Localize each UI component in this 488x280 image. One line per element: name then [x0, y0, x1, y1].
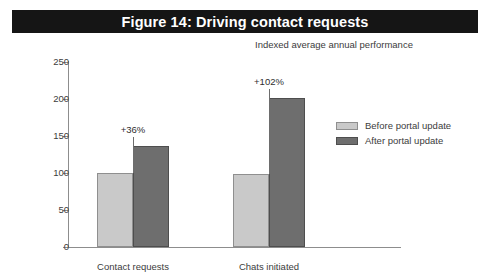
annotation-connector-1	[269, 89, 270, 174]
x-axis-line	[68, 247, 401, 248]
legend-swatch-before	[336, 122, 358, 130]
bar-before-0	[97, 173, 133, 247]
legend-swatch-after	[336, 137, 358, 145]
bar-after-1	[269, 98, 305, 247]
y-tick-label: 150	[35, 130, 69, 141]
y-tick-label: 0	[35, 241, 69, 252]
x-category-label-1: Chats initiated	[239, 261, 299, 272]
annotation-connector-0	[133, 137, 134, 173]
annotation-label-0: +36%	[121, 124, 146, 135]
bar-before-1	[233, 174, 269, 247]
x-category-label-0: Contact requests	[97, 261, 169, 272]
y-tick-label: 50	[35, 204, 69, 215]
legend-label-before: Before portal update	[365, 120, 451, 131]
bar-after-0	[133, 146, 169, 247]
y-tick-label: 250	[35, 56, 69, 67]
y-tick-label: 200	[35, 93, 69, 104]
legend-label-after: After portal update	[365, 135, 443, 146]
legend-item-before: Before portal update	[336, 119, 451, 132]
annotation-label-1: +102%	[254, 76, 284, 87]
legend-item-after: After portal update	[336, 134, 451, 147]
y-axis-line	[68, 61, 69, 248]
y-tick-label: 100	[35, 167, 69, 178]
chart-legend: Before portal updateAfter portal update	[336, 119, 451, 149]
